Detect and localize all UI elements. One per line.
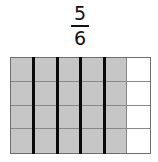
grid-cell-shaded: [104, 129, 127, 153]
fraction-numerator: 5: [64, 4, 96, 23]
grid-cell-shaded: [34, 82, 57, 106]
grid-cell-shaded: [11, 58, 34, 82]
thick-column-divider: [103, 57, 106, 154]
grid-cell-shaded: [57, 58, 80, 82]
grid-cell-empty: [127, 58, 150, 82]
fraction-label: 5 6: [64, 4, 96, 48]
grid-cell-shaded: [104, 58, 127, 82]
grid-cell-shaded: [34, 106, 57, 130]
grid-cell-shaded: [34, 58, 57, 82]
grid-cell-shaded: [104, 106, 127, 130]
grid-cell-shaded: [11, 82, 34, 106]
grid-cell-empty: [127, 129, 150, 153]
grid-cell-shaded: [11, 129, 34, 153]
thick-column-divider: [32, 57, 35, 154]
thick-column-divider: [56, 57, 59, 154]
grid-cell-shaded: [34, 129, 57, 153]
grid-cell-shaded: [57, 82, 80, 106]
grid-cell-shaded: [80, 106, 103, 130]
grid-cell-shaded: [80, 129, 103, 153]
grid-cell-empty: [127, 106, 150, 130]
grid-cell-shaded: [104, 82, 127, 106]
grid-cell-shaded: [80, 58, 103, 82]
grid-cell-shaded: [80, 82, 103, 106]
grid-cell-shaded: [57, 106, 80, 130]
fraction-denominator: 6: [64, 29, 96, 48]
grid-cell-empty: [127, 82, 150, 106]
grid-cell-shaded: [57, 129, 80, 153]
grid-cell-shaded: [11, 106, 34, 130]
thick-column-divider: [79, 57, 82, 154]
